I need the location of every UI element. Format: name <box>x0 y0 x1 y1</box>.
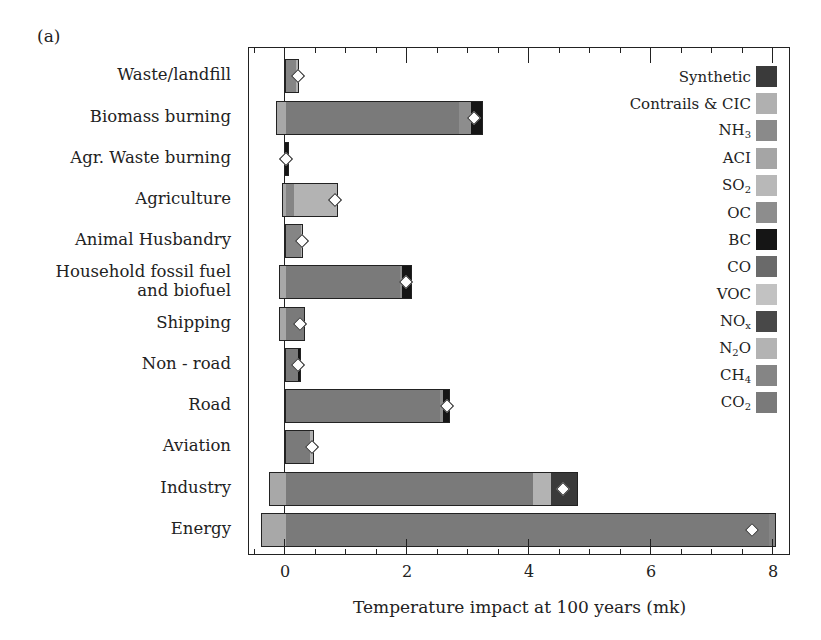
x-tick-label: 0 <box>280 562 290 581</box>
plot-area <box>248 47 790 555</box>
minor-tick <box>315 47 316 53</box>
minor-tick <box>681 47 682 53</box>
segment-co2 <box>286 390 440 422</box>
minor-tick <box>681 549 682 555</box>
major-tick <box>772 47 773 63</box>
segment-ch4 <box>286 184 294 216</box>
minor-tick <box>437 549 438 555</box>
minor-tick <box>376 47 377 53</box>
legend-item-aci: ACI <box>723 148 777 169</box>
minor-tick <box>559 47 560 53</box>
x-tick-label: 2 <box>402 562 412 581</box>
minor-tick <box>589 47 590 53</box>
x-axis-title: Temperature impact at 100 years (mk) <box>0 597 821 617</box>
legend-swatch <box>756 365 777 386</box>
category-label: Agriculture <box>135 189 231 208</box>
major-tick <box>650 539 651 555</box>
segment-co2 <box>286 102 459 134</box>
minor-tick <box>711 47 712 53</box>
legend-swatch <box>756 93 777 114</box>
category-label: Waste/landfill <box>117 65 231 84</box>
legend-label: SO2 <box>722 176 751 195</box>
legend-item-so2: SO2 <box>722 175 777 196</box>
category-label: Road <box>188 395 231 414</box>
minor-tick <box>498 47 499 53</box>
category-label: Non - road <box>142 354 231 373</box>
legend-item-voc: VOC <box>717 284 777 305</box>
legend-label: NOx <box>720 312 751 331</box>
negative-segment <box>270 473 286 505</box>
bar-household-fossil-fuel-and-biofuel <box>279 265 412 299</box>
category-label: Animal Husbandry <box>75 230 231 249</box>
minor-tick <box>620 47 621 53</box>
legend-item-contrails: Contrails & CIC <box>630 93 777 114</box>
category-label: Aviation <box>163 436 231 455</box>
x-tick-label: 6 <box>646 562 656 581</box>
minor-tick <box>376 549 377 555</box>
legend-item-n2o: N2O <box>719 338 777 359</box>
major-tick <box>406 539 407 555</box>
legend-item-co: CO <box>727 256 777 277</box>
minor-tick <box>437 47 438 53</box>
category-label: Household fossil fueland biofuel <box>56 262 231 300</box>
minor-tick <box>742 47 743 53</box>
legend-swatch <box>756 392 777 413</box>
legend-label: ACI <box>723 149 751 167</box>
category-label: Shipping <box>156 313 231 332</box>
minor-tick <box>254 47 255 53</box>
legend-swatch <box>756 229 777 250</box>
legend-swatch <box>756 284 777 305</box>
minor-tick <box>559 549 560 555</box>
bar-industry <box>269 472 578 506</box>
net-marker-diamond <box>279 152 293 166</box>
bar-road <box>285 389 450 423</box>
legend-item-nh3: NH3 <box>718 120 777 141</box>
legend-label: Contrails & CIC <box>630 95 751 113</box>
legend-label: CO2 <box>721 393 751 412</box>
major-tick <box>528 539 529 555</box>
negative-segment <box>262 514 286 546</box>
minor-tick <box>345 47 346 53</box>
category-label: Industry <box>160 478 231 497</box>
segment-co2 <box>286 473 533 505</box>
minor-tick <box>742 549 743 555</box>
legend-item-co2: CO2 <box>721 392 777 413</box>
negative-segment <box>277 102 286 134</box>
category-label: Agr. Waste burning <box>70 148 231 167</box>
major-tick <box>772 539 773 555</box>
x-tick-label: 8 <box>768 562 778 581</box>
legend-label: NH3 <box>718 121 751 140</box>
legend-item-bc: BC <box>728 229 777 250</box>
bar-energy <box>261 513 776 547</box>
minor-tick <box>467 549 468 555</box>
panel-label: (a) <box>37 26 60 46</box>
major-tick <box>650 47 651 63</box>
minor-tick <box>498 549 499 555</box>
legend-item-ch4: CH4 <box>720 365 777 386</box>
major-tick <box>284 539 285 555</box>
major-tick <box>284 47 285 63</box>
category-label: Biomass burning <box>90 107 231 126</box>
minor-tick <box>345 549 346 555</box>
legend-label: Synthetic <box>679 68 751 86</box>
major-tick <box>528 47 529 63</box>
legend-swatch <box>756 120 777 141</box>
legend-item-synthetic: Synthetic <box>679 66 777 87</box>
legend-label: OC <box>727 204 751 222</box>
minor-tick <box>315 549 316 555</box>
minor-tick <box>467 47 468 53</box>
x-tick-label: 4 <box>524 562 534 581</box>
legend-label: CO <box>727 258 751 276</box>
legend-swatch <box>756 311 777 332</box>
legend-item-oc: OC <box>727 202 777 223</box>
category-label: Energy <box>171 519 231 538</box>
minor-tick <box>589 549 590 555</box>
segment-co2 <box>286 266 400 298</box>
legend-swatch <box>756 338 777 359</box>
legend-label: N2O <box>719 339 751 358</box>
legend-swatch <box>756 66 777 87</box>
bar-biomass-burning <box>276 101 483 135</box>
minor-tick <box>254 549 255 555</box>
legend-label: VOC <box>717 285 751 303</box>
legend-swatch <box>756 175 777 196</box>
